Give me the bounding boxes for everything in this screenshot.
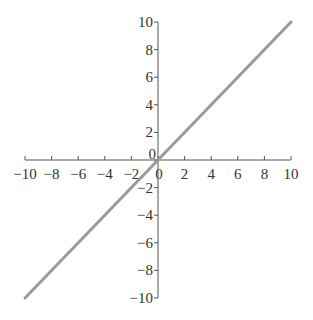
y-tick-label: −2 bbox=[137, 180, 153, 196]
y-tick-label: −4 bbox=[137, 207, 153, 223]
y-tick-label: 0 bbox=[149, 146, 157, 162]
y-tick-label: 6 bbox=[146, 69, 154, 85]
x-tick-label: −6 bbox=[70, 166, 86, 182]
x-tick-label: −8 bbox=[44, 166, 60, 182]
x-tick-label: −10 bbox=[13, 166, 36, 182]
y-tick-label: −10 bbox=[130, 290, 153, 306]
x-tick-label: 0 bbox=[155, 166, 163, 182]
x-tick-label: 6 bbox=[234, 166, 242, 182]
line-chart: −10−8−6−4−20246810−10−8−6−4−20246810 bbox=[0, 0, 313, 320]
x-tick-label: 10 bbox=[284, 166, 299, 182]
x-tick-label: −4 bbox=[97, 166, 113, 182]
x-tick-label: 2 bbox=[181, 166, 189, 182]
x-tick-label: 8 bbox=[261, 166, 269, 182]
y-tick-label: 8 bbox=[146, 42, 154, 58]
y-tick-label: −6 bbox=[137, 235, 153, 251]
y-tick-label: 4 bbox=[146, 97, 154, 113]
y-tick-label: 2 bbox=[146, 124, 154, 140]
y-tick-label: 10 bbox=[138, 14, 153, 30]
y-tick-label: −8 bbox=[137, 262, 153, 278]
x-tick-label: 4 bbox=[207, 166, 215, 182]
